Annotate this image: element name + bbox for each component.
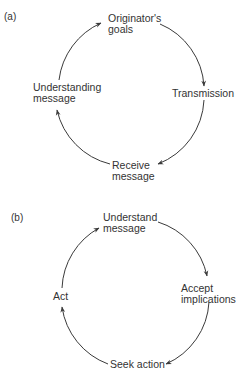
- node-label-line1: Seek action: [110, 359, 165, 370]
- node-act: Act: [53, 291, 68, 302]
- node-understanding-message: Understanding message: [33, 82, 101, 104]
- cycle-diagram-a: (a) Originator's goals Transmission Rece…: [0, 0, 250, 192]
- node-originators-goals: Originator's goals: [108, 13, 161, 35]
- panel-label-b: (b): [11, 212, 23, 223]
- arrow-understand-to-accept: [158, 222, 207, 276]
- node-label-line2: message: [33, 93, 101, 104]
- node-label-line2: implications: [181, 294, 236, 305]
- node-receive-message: Receive message: [112, 160, 155, 182]
- node-understand-message: Understand message: [103, 212, 157, 234]
- node-label-line2: message: [112, 171, 155, 182]
- node-seek-action: Seek action: [110, 359, 165, 370]
- arrow-goals-to-transmission: [160, 24, 204, 86]
- arrow-understanding-to-goals: [59, 23, 101, 80]
- cycle-diagram-b: (b) Understand message Accept implicatio…: [0, 192, 250, 384]
- node-transmission: Transmission: [172, 88, 234, 99]
- panel-label-a: (a): [4, 11, 16, 22]
- node-label-line1: Transmission: [172, 88, 234, 99]
- arrow-act-to-understand: [62, 228, 99, 288]
- arrow-accept-to-seek: [166, 302, 209, 364]
- node-label-line2: message: [103, 223, 157, 234]
- arrow-seek-to-act: [62, 307, 108, 364]
- arrow-receive-to-understanding: [57, 110, 110, 164]
- node-label-line1: Act: [53, 291, 68, 302]
- arrow-transmission-to-receive: [158, 100, 204, 164]
- node-label-line2: goals: [108, 24, 161, 35]
- node-accept-implications: Accept implications: [181, 283, 236, 305]
